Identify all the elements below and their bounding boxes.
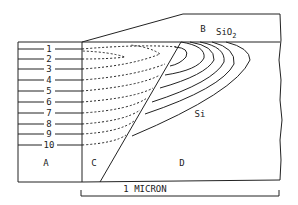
scale-bar-label: 1 MICRON — [123, 184, 166, 194]
region-d-label: D — [179, 158, 184, 168]
region-a-label: A — [43, 158, 49, 168]
contour-label-5: 5 — [46, 86, 51, 96]
oxide-top-edge — [82, 14, 280, 42]
scale-bar — [81, 190, 279, 196]
bottom-edge — [82, 180, 280, 182]
oxide-silicon-cross-section-diagram: 1 2 3 4 5 6 7 8 9 10 A C D B SiO2 Si 1 M… — [0, 0, 298, 205]
contour-label-6: 6 — [46, 97, 51, 107]
oxide-label: SiO2 — [216, 27, 236, 40]
diagram-canvas: 1 2 3 4 5 6 7 8 9 10 A C D B SiO2 Si 1 M… — [0, 0, 298, 205]
contour-label-7: 7 — [46, 108, 51, 118]
right-border — [279, 14, 282, 180]
contour-label-9: 9 — [46, 129, 51, 139]
contour-label-2: 2 — [46, 54, 51, 64]
silicon-label: Si — [195, 109, 206, 119]
contour-label-4: 4 — [46, 75, 51, 85]
contour-number-labels: 1 2 3 4 5 6 7 8 9 10 — [44, 44, 55, 150]
region-boundary-diagonal — [100, 42, 181, 182]
contour-label-3: 3 — [46, 64, 51, 74]
solid-contours — [132, 42, 250, 136]
contour-label-1: 1 — [46, 44, 51, 54]
contour-label-10: 10 — [44, 140, 55, 150]
region-c-label: C — [91, 158, 96, 168]
contour-label-8: 8 — [46, 119, 51, 129]
region-b-label: B — [200, 24, 205, 34]
